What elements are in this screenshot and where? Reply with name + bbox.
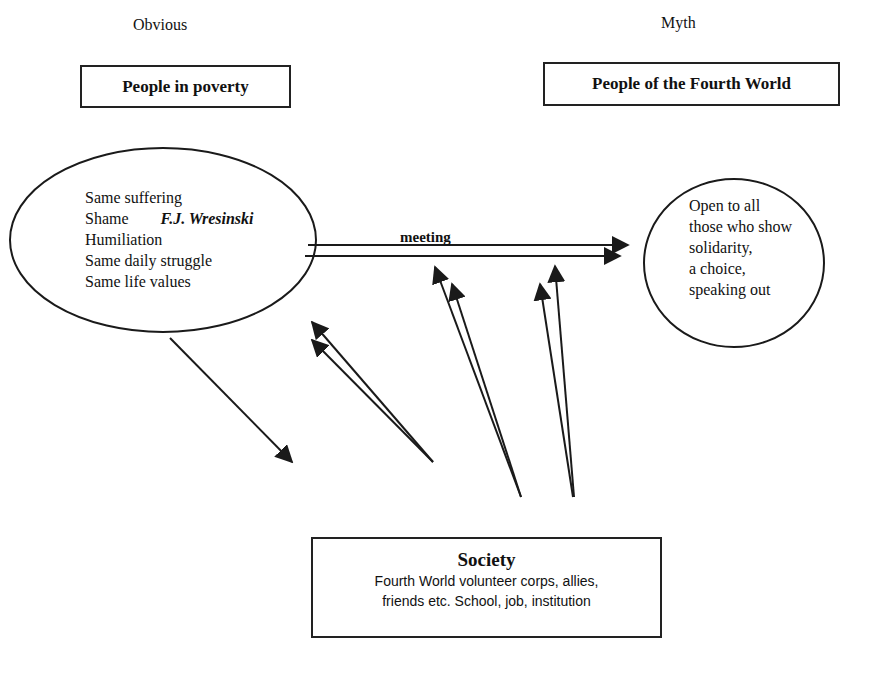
- poverty-line-2-text: Shame: [85, 210, 129, 227]
- arrow-society-meeting-1: [435, 267, 521, 497]
- arrow-society-meeting-4: [540, 284, 573, 497]
- society-line-1: Fourth World volunteer corps, allies,: [313, 571, 660, 591]
- society-title: Society: [313, 549, 660, 571]
- poverty-line-5: Same life values: [85, 271, 253, 292]
- poverty-line-4: Same daily struggle: [85, 250, 253, 271]
- poverty-line-3: Humiliation: [85, 229, 253, 250]
- society-box: Society Fourth World volunteer corps, al…: [311, 537, 662, 638]
- fw-line-2: those who show: [689, 216, 792, 237]
- wresinski-attribution: F.J. Wresinski: [161, 210, 254, 227]
- arrow-society-meeting-2: [452, 284, 521, 497]
- poverty-line-2: Shame F.J. Wresinski: [85, 208, 253, 229]
- society-line-2: friends etc. School, job, institution: [313, 591, 660, 611]
- fw-line-1: Open to all: [689, 195, 792, 216]
- fw-line-4: a choice,: [689, 258, 792, 279]
- poverty-line-1: Same suffering: [85, 187, 253, 208]
- arrow-to-poverty-1: [312, 322, 433, 462]
- fourth-world-ellipse-text: Open to all those who show solidarity, a…: [689, 195, 792, 300]
- meeting-label: meeting: [400, 229, 451, 246]
- fw-line-5: speaking out: [689, 279, 792, 300]
- fw-line-3: solidarity,: [689, 237, 792, 258]
- poverty-ellipse-text: Same suffering Shame F.J. Wresinski Humi…: [85, 187, 253, 292]
- arrow-poverty-outward: [170, 338, 292, 462]
- arrow-society-meeting-3: [555, 266, 574, 497]
- arrow-to-poverty-2: [312, 340, 433, 462]
